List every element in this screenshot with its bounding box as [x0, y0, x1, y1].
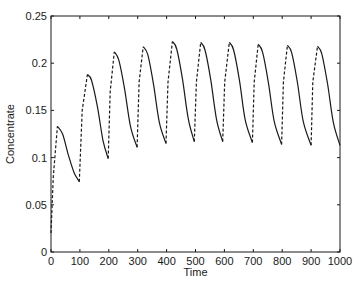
x-tick-label: 800 [273, 255, 291, 267]
y-tick-label: 0.25 [26, 10, 47, 22]
y-tick-labels: 00.050.10.150.20.25 [26, 10, 47, 258]
x-tick-label: 900 [302, 255, 320, 267]
chart: 01002003004005006007008009001000 00.050.… [0, 0, 363, 289]
x-tick-label: 400 [157, 255, 175, 267]
x-tick-label: 200 [100, 255, 118, 267]
x-tick-label: 1000 [328, 255, 352, 267]
y-tick-label: 0.05 [26, 199, 47, 211]
y-axis-label: Concentrate [4, 104, 16, 164]
plot-area [51, 16, 340, 252]
y-tick-label: 0.2 [32, 57, 47, 69]
x-tick-label: 0 [48, 255, 54, 267]
x-tick-label: 100 [71, 255, 89, 267]
x-tick-label: 700 [244, 255, 262, 267]
y-tick-label: 0.1 [32, 152, 47, 164]
x-axis-label: Time [183, 266, 207, 278]
x-tick-label: 600 [215, 255, 233, 267]
x-tick-label: 300 [129, 255, 147, 267]
y-tick-label: 0.15 [26, 104, 47, 116]
y-tick-label: 0 [41, 246, 47, 258]
